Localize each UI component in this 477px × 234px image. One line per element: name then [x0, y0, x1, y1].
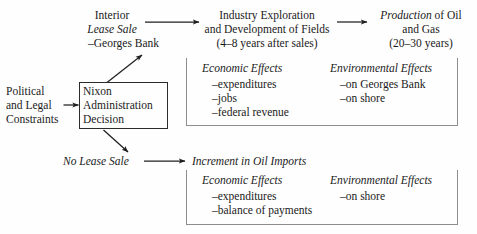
decision-line-3: Decision — [83, 112, 169, 126]
lower-environmental-item-1: –on shore — [340, 189, 385, 203]
lower-economic-effects-title: Economic Effects — [202, 174, 282, 186]
constraints-line-1: Political — [6, 84, 64, 98]
oil-imports-node: Increment in Oil Imports — [192, 154, 306, 168]
industry-line-3: (4–8 years after sales) — [196, 36, 338, 50]
lower-economic-item-2: –balance of payments — [212, 203, 312, 217]
upper-economic-item-3: –federal revenue — [212, 105, 289, 119]
no-lease-sale-node: No Lease Sale — [63, 154, 129, 168]
industry-line-1: Industry Exploration — [196, 8, 338, 22]
constraints-label: Political and Legal Constraints — [6, 84, 64, 127]
upper-economic-item-1: –expenditures — [212, 77, 289, 91]
lower-environmental-effects-list: –on shore — [340, 189, 385, 203]
upper-economic-item-2: –jobs — [212, 91, 289, 105]
industry-exploration-node: Industry Exploration and Development of … — [196, 8, 338, 51]
production-line-3: (20–30 years) — [372, 36, 470, 50]
lower-economic-effects-list: –expenditures –balance of payments — [212, 189, 312, 217]
lower-environmental-effects-title: Environmental Effects — [330, 174, 432, 186]
lease-sale-line-1: Interior — [78, 8, 146, 22]
lease-sale-line-2: Lease Sale — [78, 22, 146, 36]
flow-diagram: Political and Legal Constraints Nixon Ad… — [0, 0, 477, 234]
production-word-rest: of Oil — [432, 9, 462, 21]
lease-sale-line-3: –Georges Bank — [88, 36, 146, 50]
production-node: Production of Oil and Gas (20–30 years) — [372, 8, 470, 51]
arrow-decision-to-no-lease-sale — [104, 130, 129, 152]
upper-environmental-effects-title: Environmental Effects — [330, 62, 432, 74]
upper-environmental-item-2: –on shore — [340, 91, 425, 105]
upper-economic-effects-list: –expenditures –jobs –federal revenue — [212, 77, 289, 120]
constraints-line-2: and Legal — [6, 98, 64, 112]
production-line-1: Production of Oil — [372, 8, 470, 22]
production-word-italic: Production — [380, 9, 431, 21]
upper-economic-effects-title: Economic Effects — [202, 62, 282, 74]
lease-sale-node: Interior Lease Sale –Georges Bank — [78, 8, 146, 51]
upper-environmental-effects-list: –on Georges Bank –on shore — [340, 77, 425, 105]
decision-line-2: Administration — [83, 98, 169, 112]
constraints-line-3: Constraints — [6, 112, 64, 126]
decision-box-label: Nixon Administration Decision — [83, 84, 169, 127]
production-line-2: and Gas — [372, 22, 470, 36]
lower-economic-item-1: –expenditures — [212, 189, 312, 203]
arrow-decision-to-lease-sale — [107, 55, 142, 83]
industry-line-2: and Development of Fields — [196, 22, 338, 36]
upper-environmental-item-1: –on Georges Bank — [340, 77, 425, 91]
decision-line-1: Nixon — [83, 84, 169, 98]
